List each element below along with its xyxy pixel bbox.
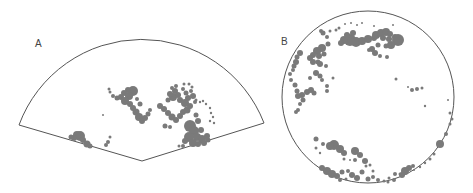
blob xyxy=(88,144,93,149)
blob xyxy=(210,112,212,114)
blob xyxy=(447,99,449,101)
blob xyxy=(344,32,350,38)
blob xyxy=(449,112,452,115)
blob xyxy=(429,158,432,161)
blob xyxy=(289,78,293,82)
blob xyxy=(202,100,204,102)
blob xyxy=(393,172,397,176)
blob xyxy=(367,48,371,52)
blob xyxy=(194,113,199,118)
blob xyxy=(310,59,316,65)
blob xyxy=(109,136,112,139)
blob xyxy=(191,86,194,89)
blob xyxy=(135,97,139,101)
blob xyxy=(413,169,415,171)
blob xyxy=(326,142,334,150)
blob xyxy=(321,142,325,146)
blob xyxy=(312,91,317,96)
blob xyxy=(199,101,201,103)
blob xyxy=(387,31,393,37)
blob xyxy=(376,178,380,182)
blob xyxy=(181,144,185,148)
blob xyxy=(372,50,378,56)
blob xyxy=(198,127,204,133)
blob xyxy=(449,123,452,126)
blob xyxy=(324,64,328,68)
blob xyxy=(371,175,375,179)
blob xyxy=(325,89,329,93)
blob xyxy=(166,98,171,103)
blob xyxy=(346,169,350,173)
blob xyxy=(205,103,207,105)
blob xyxy=(338,27,341,30)
blob xyxy=(419,166,421,168)
blob xyxy=(392,178,396,182)
blob xyxy=(388,177,391,180)
blob xyxy=(190,93,196,99)
blob xyxy=(168,125,172,129)
blob xyxy=(115,96,120,101)
blob xyxy=(387,181,390,184)
blob xyxy=(372,170,375,173)
blob xyxy=(424,162,426,164)
blob xyxy=(373,25,375,27)
blob xyxy=(293,83,298,88)
blob xyxy=(354,175,360,181)
blob xyxy=(384,44,389,49)
blob xyxy=(299,92,305,98)
blob xyxy=(111,94,115,98)
blob xyxy=(209,120,211,122)
panel-b-blobs xyxy=(288,22,454,184)
blob xyxy=(138,102,143,107)
blob xyxy=(345,178,348,181)
blob xyxy=(187,103,193,109)
blob xyxy=(294,110,298,114)
blob xyxy=(343,158,346,161)
blob xyxy=(349,159,351,161)
blob xyxy=(295,89,300,94)
blob xyxy=(361,22,363,24)
blob xyxy=(366,177,371,182)
blob xyxy=(334,173,340,179)
blob xyxy=(146,112,151,117)
blob xyxy=(433,153,436,156)
blob xyxy=(291,68,295,72)
blob xyxy=(189,89,193,93)
blob xyxy=(295,55,300,60)
blob xyxy=(318,74,323,79)
blob xyxy=(298,102,302,106)
blob xyxy=(288,72,292,76)
blob xyxy=(69,135,74,140)
figure-canvas xyxy=(0,0,473,193)
blob xyxy=(181,87,185,91)
blob xyxy=(184,91,189,96)
blob xyxy=(148,108,152,112)
blob xyxy=(317,61,323,67)
blob xyxy=(353,158,357,162)
blob xyxy=(320,78,324,82)
blob xyxy=(102,114,104,116)
blob xyxy=(341,150,347,156)
blob xyxy=(326,42,331,47)
blob xyxy=(407,86,409,88)
panel-a-blobs xyxy=(69,83,216,149)
blob xyxy=(360,170,365,175)
blob xyxy=(410,88,414,92)
blob xyxy=(170,86,174,90)
blob xyxy=(332,77,335,80)
blob xyxy=(329,30,332,33)
blob xyxy=(344,23,346,25)
blob xyxy=(338,40,344,46)
panel-a-sector-outline xyxy=(19,39,264,161)
blob xyxy=(376,43,381,48)
blob xyxy=(213,122,215,124)
blob xyxy=(349,172,355,178)
blob xyxy=(436,140,444,148)
blob xyxy=(182,138,188,144)
blob xyxy=(421,87,424,90)
blob xyxy=(109,91,112,94)
blob xyxy=(206,138,211,143)
blob xyxy=(362,158,368,164)
blob xyxy=(365,165,368,168)
blob xyxy=(325,35,329,39)
